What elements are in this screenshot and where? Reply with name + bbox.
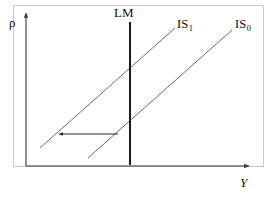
lm-curve-label: LM — [114, 6, 134, 19]
is0-curve-label: IS0 — [235, 18, 250, 31]
is0-curve — [88, 30, 232, 158]
is1-curve — [40, 28, 175, 148]
is0-label-subscript: 0 — [247, 23, 251, 33]
is0-label-base: IS — [235, 17, 246, 31]
y-axis-label: ρ — [9, 16, 16, 29]
is-lm-figure: ρ LM IS1 IS0 Y — [0, 0, 269, 200]
figure-canvas — [0, 0, 269, 200]
x-axis-label: Y — [240, 176, 247, 189]
is1-label-subscript: 1 — [189, 23, 193, 33]
is1-curve-label: IS1 — [177, 18, 192, 31]
is1-label-base: IS — [177, 17, 188, 31]
figure-frame — [14, 6, 264, 167]
